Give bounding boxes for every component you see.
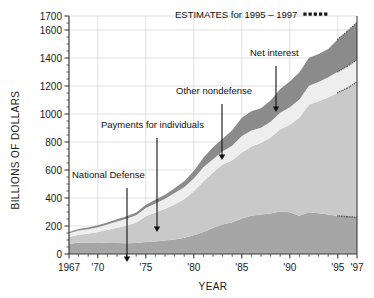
- annotation-label: Other nondefense: [176, 85, 252, 96]
- x-tick-label: 1967: [58, 262, 81, 273]
- x-axis-title: YEAR: [199, 281, 228, 292]
- y-tick-label: 1700: [40, 11, 63, 22]
- y-tick-label: 1600: [40, 25, 63, 36]
- annotation-label: National Defense: [72, 169, 145, 180]
- annotation-label: Net interest: [250, 47, 299, 58]
- y-tick-label: 400: [45, 193, 62, 204]
- annotation-label: Payments for individuals: [101, 119, 204, 130]
- x-tick-label: '90: [283, 262, 296, 273]
- x-tick-label: '97: [350, 262, 363, 273]
- estimates-legend-label: ESTIMATES for 1995 – 1997: [175, 9, 297, 20]
- x-tick-label: '70: [91, 262, 104, 273]
- x-tick-label: '80: [187, 262, 200, 273]
- y-axis-title: BILLIONS OF DOLLARS: [10, 91, 21, 210]
- y-tick-label: 800: [45, 137, 62, 148]
- y-tick-label: 1000: [40, 109, 63, 120]
- x-tick-label: '75: [139, 262, 152, 273]
- y-tick-label: 200: [45, 221, 62, 232]
- y-tick-label: 0: [56, 249, 62, 260]
- chart-container: 020040060080010001200140016001700 1967'7…: [0, 0, 374, 298]
- x-tick-label: '95: [331, 262, 344, 273]
- y-tick-label: 1400: [40, 53, 63, 64]
- budget-outlays-stacked-area-chart: 020040060080010001200140016001700 1967'7…: [0, 0, 374, 298]
- y-tick-label: 1200: [40, 81, 63, 92]
- x-tick-label: '85: [235, 262, 248, 273]
- y-tick-label: 600: [45, 165, 62, 176]
